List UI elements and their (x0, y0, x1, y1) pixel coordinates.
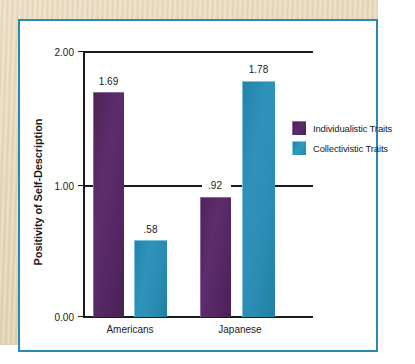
bar-japanese-collectivistic[interactable] (242, 81, 275, 317)
y-tick-label-2-00: 2.00 (38, 47, 74, 58)
x-category-label-americans: Americans (95, 324, 165, 335)
legend-item-individualistic[interactable]: Individualistic Traits (292, 118, 392, 138)
bar-value-americans-individualistic: 1.69 (88, 76, 129, 87)
x-category-label-japanese: Japanese (205, 324, 275, 335)
legend-item-collectivistic[interactable]: Collectivistic Traits (292, 138, 392, 158)
y-axis-line (83, 51, 85, 317)
legend-swatch-collectivistic-icon (292, 141, 306, 155)
bar-value-americans-collectivistic: .58 (130, 224, 171, 235)
legend-label-collectivistic: Collectivistic Traits (313, 143, 388, 154)
bar-chart: Positivity of Self-Description 2.00 1.00… (0, 0, 415, 364)
legend-swatch-individualistic-icon (292, 121, 306, 135)
legend-label-individualistic: Individualistic Traits (313, 123, 392, 134)
y-axis-title: Positivity of Self-Description (32, 92, 44, 292)
y-tick-mark-1-00 (78, 185, 84, 186)
bar-americans-individualistic[interactable] (93, 92, 124, 317)
y-tick-label-0-00: 0.00 (38, 312, 74, 323)
bar-americans-collectivistic[interactable] (134, 240, 167, 317)
gridline-2-00 (83, 51, 313, 53)
y-tick-label-1-00: 1.00 (38, 181, 74, 192)
bar-japanese-individualistic[interactable] (200, 197, 231, 317)
y-tick-mark-0-00 (78, 316, 84, 317)
bar-value-japanese-individualistic: .92 (197, 180, 233, 191)
bar-value-japanese-collectivistic: 1.78 (238, 64, 279, 75)
y-tick-mark-2-00 (78, 51, 84, 52)
figure-container: Positivity of Self-Description 2.00 1.00… (0, 0, 415, 364)
legend: Individualistic Traits Collectivistic Tr… (292, 118, 392, 158)
